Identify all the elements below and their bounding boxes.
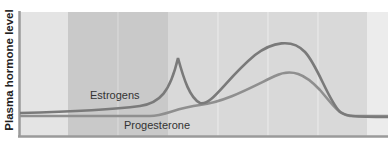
estrogens-label: Estrogens (90, 89, 140, 101)
background-bands (20, 12, 388, 136)
hormone-chart (0, 0, 388, 146)
progesterone-label: Progesterone (124, 119, 190, 131)
